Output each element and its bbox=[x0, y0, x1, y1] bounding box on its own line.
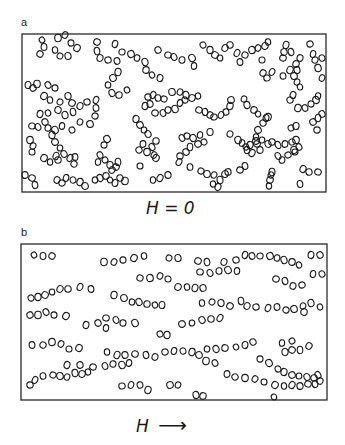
particle bbox=[109, 360, 116, 368]
particle bbox=[297, 180, 304, 188]
particle bbox=[156, 330, 164, 338]
particle bbox=[279, 157, 285, 164]
particle bbox=[254, 125, 263, 134]
particle bbox=[189, 320, 195, 326]
particle bbox=[297, 346, 303, 354]
particle bbox=[110, 291, 117, 299]
particle bbox=[282, 41, 290, 50]
particle bbox=[101, 362, 108, 370]
particle bbox=[297, 382, 304, 389]
particle bbox=[76, 283, 84, 292]
particle bbox=[259, 57, 266, 64]
particle bbox=[280, 256, 288, 265]
particle bbox=[312, 96, 320, 105]
particle bbox=[66, 346, 73, 353]
particle bbox=[195, 351, 203, 360]
particle bbox=[31, 376, 39, 385]
particle bbox=[61, 311, 70, 320]
particle bbox=[174, 283, 182, 292]
particle bbox=[58, 179, 66, 186]
particle bbox=[56, 285, 65, 294]
particle bbox=[226, 302, 235, 311]
particle bbox=[306, 168, 313, 175]
particle bbox=[204, 258, 211, 266]
particle bbox=[208, 298, 216, 306]
particle bbox=[148, 71, 155, 79]
particle bbox=[243, 101, 251, 110]
particle bbox=[253, 134, 258, 140]
particle bbox=[305, 342, 313, 351]
particle bbox=[88, 285, 94, 292]
particle bbox=[160, 95, 168, 103]
particle bbox=[206, 269, 214, 278]
particle bbox=[140, 141, 146, 148]
particle bbox=[156, 272, 164, 280]
particle bbox=[141, 58, 149, 67]
particle bbox=[68, 40, 75, 47]
particle bbox=[281, 277, 288, 285]
particle bbox=[152, 153, 161, 162]
particle bbox=[61, 31, 69, 40]
particle bbox=[45, 109, 52, 117]
particle bbox=[94, 319, 102, 327]
particle bbox=[217, 176, 224, 184]
particle bbox=[28, 174, 36, 182]
particle bbox=[318, 74, 325, 82]
particle bbox=[112, 316, 120, 325]
particle bbox=[218, 299, 225, 307]
particle bbox=[126, 359, 132, 367]
particle bbox=[108, 88, 116, 97]
particle bbox=[199, 284, 207, 292]
particle bbox=[41, 291, 50, 300]
particle bbox=[56, 52, 64, 60]
particle bbox=[164, 52, 171, 59]
particle bbox=[203, 170, 210, 178]
particle bbox=[49, 371, 57, 379]
particle bbox=[61, 111, 69, 120]
particle bbox=[63, 373, 70, 381]
particle bbox=[294, 104, 302, 113]
particle bbox=[40, 372, 47, 379]
particle bbox=[272, 275, 280, 283]
particle bbox=[268, 68, 276, 77]
particle bbox=[141, 127, 147, 134]
particle bbox=[113, 351, 121, 360]
particle bbox=[144, 300, 151, 307]
particle bbox=[146, 274, 154, 282]
particle bbox=[69, 176, 76, 184]
particle bbox=[184, 283, 191, 290]
particle bbox=[150, 177, 156, 184]
particle bbox=[48, 338, 55, 346]
particle bbox=[103, 324, 109, 331]
particle bbox=[304, 380, 312, 388]
particle bbox=[210, 113, 217, 120]
particle bbox=[56, 372, 64, 380]
particle bbox=[315, 114, 321, 122]
particle bbox=[224, 371, 230, 378]
particle bbox=[179, 57, 185, 64]
particle bbox=[93, 38, 101, 46]
particle bbox=[318, 54, 326, 62]
particle bbox=[310, 270, 317, 278]
particle bbox=[165, 254, 173, 262]
panel-b-frame bbox=[21, 244, 327, 400]
particle bbox=[36, 110, 43, 118]
particle bbox=[170, 347, 177, 355]
particle bbox=[174, 254, 181, 262]
panel-a-caption: H = 0 bbox=[146, 198, 195, 218]
particle bbox=[137, 163, 143, 169]
particle bbox=[51, 312, 57, 318]
particle bbox=[127, 381, 134, 389]
particle bbox=[70, 108, 76, 116]
figure-canvas bbox=[0, 0, 345, 445]
particle bbox=[282, 306, 290, 314]
particle bbox=[32, 181, 39, 189]
particle bbox=[120, 319, 127, 326]
particle bbox=[110, 258, 118, 267]
particle bbox=[129, 299, 135, 306]
particle bbox=[36, 50, 44, 59]
particle bbox=[155, 94, 162, 101]
particle bbox=[52, 46, 58, 53]
particle bbox=[318, 110, 326, 119]
particle bbox=[314, 127, 321, 134]
